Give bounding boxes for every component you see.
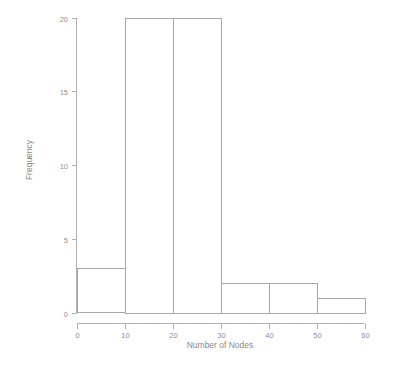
bars-group xyxy=(78,19,366,314)
y-tick-label: 5 xyxy=(64,236,68,245)
histogram-bar xyxy=(318,299,366,314)
y-tick-label: 15 xyxy=(60,88,68,97)
x-tick-label: 0 xyxy=(75,331,79,340)
y-axis-ticks: 05101520 xyxy=(60,15,77,319)
y-tick-label: 0 xyxy=(64,310,68,319)
x-tick-label: 10 xyxy=(121,331,129,340)
histogram-plot-area: 05101520 0102030405060 Number of Nodes F… xyxy=(0,0,402,367)
histogram-bar xyxy=(126,19,174,314)
x-tick-label: 50 xyxy=(313,331,321,340)
histogram-bar xyxy=(222,284,270,314)
y-tick-label: 20 xyxy=(60,15,68,24)
x-tick-label: 30 xyxy=(217,331,225,340)
histogram-bar xyxy=(78,269,126,313)
x-tick-label: 60 xyxy=(361,331,369,340)
histogram-figure: 05101520 0102030405060 Number of Nodes F… xyxy=(0,0,402,367)
x-axis-ticks: 0102030405060 xyxy=(75,324,369,340)
x-tick-label: 20 xyxy=(169,331,177,340)
y-axis-title: Frequency xyxy=(24,139,34,180)
histogram-bar xyxy=(174,19,222,314)
x-tick-label: 40 xyxy=(265,331,273,340)
x-axis-title: Number of Nodes xyxy=(187,340,254,350)
y-tick-label: 10 xyxy=(60,162,68,171)
histogram-bar xyxy=(270,284,318,314)
